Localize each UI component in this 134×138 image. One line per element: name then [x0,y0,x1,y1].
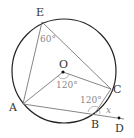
segment-ec [42,22,111,89]
label-o: O [59,58,68,71]
label-c: C [113,83,121,96]
label-a: A [8,101,18,114]
angle-label-x: x [106,105,111,115]
label-e: E [36,6,44,19]
label-b: B [91,118,99,131]
geometry-diagram: E O A C B D 60° 120° 120° x [0,0,134,138]
angle-label-e: 60° [40,34,56,44]
angle-label-b: 120° [80,95,102,105]
label-d: D [115,122,124,135]
point-d-dot [118,117,121,120]
angle-label-o: 120° [56,80,78,90]
